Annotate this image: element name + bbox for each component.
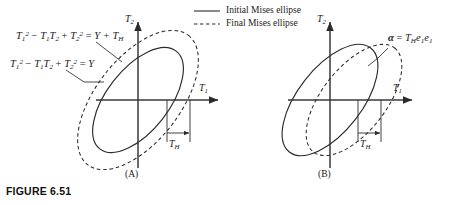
- eq-a1-plus: +: [53, 58, 64, 69]
- panel-b-caption: (B): [318, 170, 331, 180]
- panel-a-leader-initial: [66, 70, 104, 82]
- panel-a-th-sub: H: [175, 143, 180, 150]
- panel-a-initial-equation: T12 − T1T2 + T22 = Y: [10, 59, 94, 71]
- eq-a2-rhs: Y + T: [94, 30, 118, 41]
- eq-a1-rhs: Y: [88, 58, 94, 69]
- panel-b-x-axis-sub: 1: [399, 87, 402, 94]
- panel-b-th-label: TH: [360, 139, 370, 150]
- legend: [194, 11, 220, 24]
- alpha-e2-sub: 1: [429, 37, 433, 45]
- panel-a-leader-final: [96, 42, 122, 62]
- eq-a2-rhs-sub: H: [118, 35, 123, 43]
- legend-label-initial: Initial Mises ellipse: [226, 6, 301, 16]
- eq-a1-equals: =: [77, 58, 88, 69]
- panel-a-th-label: TH: [169, 139, 179, 150]
- panel-b-y-axis-sub: 2: [323, 18, 326, 25]
- panel-a-final-equation: T12 − T1T2 + T22 = Y + TH: [16, 31, 123, 43]
- figure-caption: FIGURE 6.51: [6, 186, 71, 197]
- panel-a-y-axis-sub: 2: [131, 18, 134, 25]
- panel-a-caption: (A): [125, 170, 138, 180]
- panel-a-x-axis-label: T1: [199, 83, 208, 94]
- panel-b-y-axis-label: T2: [317, 14, 326, 25]
- panel-b-th-sub: H: [366, 143, 371, 150]
- figure-6-51: Initial Mises ellipse Final Mises ellips…: [0, 0, 460, 205]
- panel-b-x-axis-label: T1: [393, 83, 402, 94]
- panel-a-x-axis-sub: 1: [205, 87, 208, 94]
- eq-a2-minus: −: [29, 30, 40, 41]
- eq-a2-plus: +: [59, 30, 70, 41]
- legend-label-final: Final Mises ellipse: [226, 19, 298, 29]
- panel-b-alpha-equation: α = THe1e1: [388, 33, 432, 45]
- panel-a-y-axis-label: T2: [125, 14, 134, 25]
- eq-a1-minus: −: [23, 58, 34, 69]
- eq-a2-equals: =: [83, 30, 94, 41]
- alpha-equals: =: [394, 32, 405, 43]
